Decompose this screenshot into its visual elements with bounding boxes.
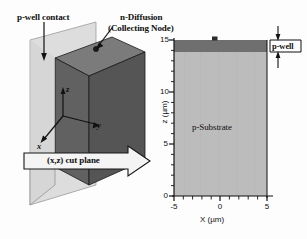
figure-root: p-well contact n-Diffusion (Collecting N… (0, 0, 307, 239)
y-tick-label-5: 5 (160, 140, 168, 148)
three-d-schematic-svg (0, 0, 160, 239)
y-major-ticks (169, 40, 174, 196)
n-diffusion-node-block (212, 37, 218, 41)
region-p-well (174, 40, 267, 52)
x-axis-title: X (µm) (200, 216, 224, 224)
y-axis-title: z (µm) (161, 88, 169, 136)
pwell-contact-label: p-well contact (17, 12, 69, 22)
cross-section-svg (160, 0, 307, 239)
cross-section-panel: 15 10 5 0 z (µm) -5 0 5 X (µm) p-Substra… (160, 0, 307, 239)
p-substrate-region-label: p-Substrate (192, 122, 232, 132)
x-tick-label-neg5: -5 (167, 203, 181, 211)
n-diffusion-label-line1: n-Diffusion (120, 12, 162, 22)
cut-plane-banner-label: (x,z) cut plane (47, 155, 100, 165)
cut-plane-front-sliver (30, 40, 55, 205)
x-major-ticks (174, 196, 267, 201)
axis-triad-label-y: y (97, 121, 101, 131)
axis-triad-label-x: x (37, 142, 41, 152)
three-d-schematic-panel: p-well contact n-Diffusion (Collecting N… (0, 0, 160, 239)
axis-triad-label-z: z (66, 85, 69, 95)
x-tick-label-0: 0 (214, 203, 226, 211)
p-well-region-label: p-well (272, 41, 294, 51)
y-tick-label-0: 0 (160, 192, 168, 200)
y-tick-label-15: 15 (160, 36, 168, 44)
x-tick-label-5: 5 (261, 203, 273, 211)
